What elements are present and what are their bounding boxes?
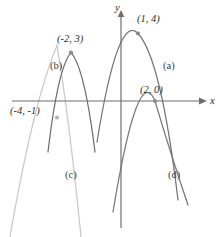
point-label-1-4: (1, 4) (137, 14, 160, 25)
y-axis-label: y (115, 3, 120, 14)
x-axis-arrow-icon (199, 98, 207, 105)
vertex-marker-a (136, 31, 140, 35)
curve-label-c: (c) (65, 170, 77, 181)
curve-c-path (10, 45, 81, 236)
point-label-2-0: (2, 0) (140, 85, 163, 96)
curve-label-b: (b) (50, 61, 62, 72)
vertex-marker-b (69, 51, 73, 55)
parabola-comparison-figure: (-2, 3) (1, 4) (2, 0) (-4, -1) (b) (a) (… (0, 0, 224, 237)
plot-canvas (0, 0, 224, 237)
curve-a-path (97, 30, 178, 200)
curve-label-d: (d) (168, 170, 180, 181)
point-label-minus2-3: (-2, 3) (57, 34, 83, 45)
x-axis-label: x (210, 96, 215, 107)
curve-label-a: (a) (163, 61, 175, 72)
vertex-marker-c (55, 116, 59, 120)
vertex-marker-d (153, 99, 157, 103)
point-label-minus4-minus1: (-4, -1) (10, 106, 40, 117)
